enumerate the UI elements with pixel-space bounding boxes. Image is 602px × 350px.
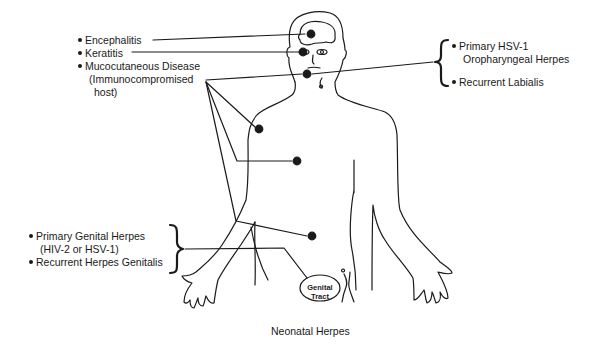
bullet-icon <box>29 260 33 264</box>
leader-oral-right <box>312 62 433 74</box>
dot-encephalitis <box>307 30 315 38</box>
caption-neonatal-herpes: Neonatal Herpes <box>271 325 350 337</box>
dot-shoulder <box>255 125 263 133</box>
right-brace <box>435 40 448 86</box>
leader-encephalitis <box>153 34 305 40</box>
label-primary-hsv1: Primary HSV-1 Oropharyngeal Herpes <box>452 40 569 66</box>
head-outline <box>287 12 452 303</box>
bullet-icon <box>29 234 33 238</box>
small-figure <box>342 269 354 302</box>
left-arm-inner <box>255 222 256 285</box>
label-recurrent-genitalis: Recurrent Herpes Genitalis <box>29 256 163 269</box>
neck-lesion <box>320 78 323 88</box>
leader-mucocutaneous-oral <box>206 74 302 80</box>
leader-abdomen <box>206 82 307 236</box>
bullet-icon <box>78 51 82 55</box>
brain-outline <box>299 21 336 44</box>
genital-tract-label: Genital Tract <box>300 283 340 301</box>
bullet-icon <box>452 44 456 48</box>
bullet-icon <box>78 38 82 42</box>
right-arm-inner <box>350 160 356 290</box>
label-encephalitis: Encephalitis <box>78 34 142 47</box>
nose <box>312 55 314 64</box>
mouth <box>308 67 320 68</box>
leader-shoulder <box>206 82 255 127</box>
left-torso-line <box>251 227 268 280</box>
bullet-icon <box>78 64 82 68</box>
left-brace <box>170 225 183 273</box>
dot-oral <box>303 70 311 78</box>
label-recurrent-labialis: Recurrent Labialis <box>452 76 544 89</box>
dot-chest <box>293 157 301 165</box>
bullet-icon <box>452 80 456 84</box>
label-primary-genital: Primary Genital Herpes (HIV-2 or HSV-1) <box>29 230 145 256</box>
label-mucocutaneous: Mucocutaneous Disease (Immunocompromised… <box>78 60 200 99</box>
dot-abdomen <box>308 232 316 240</box>
left-body-outline <box>182 82 295 308</box>
dot-keratitis <box>299 48 307 56</box>
label-keratitis: Keratitis <box>78 47 123 60</box>
leader-genital <box>185 248 307 278</box>
